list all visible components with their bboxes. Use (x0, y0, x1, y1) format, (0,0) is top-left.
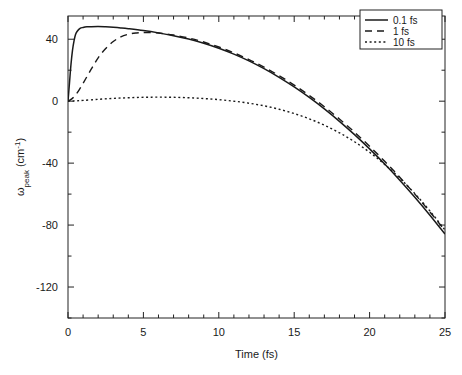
series-line-1-fs (68, 33, 445, 231)
legend-label-1-fs: 1 fs (393, 26, 409, 37)
y-tick-label: 0 (52, 95, 58, 107)
x-axis-title: Time (fs) (235, 348, 278, 360)
y-tick-label: -120 (36, 281, 58, 293)
y-axis-title: ωpeak (cm-1) (13, 138, 31, 196)
y-tick-label: 40 (46, 33, 58, 45)
legend-label-10-fs: 10 fs (393, 37, 415, 48)
legend[interactable]: 0.1 fs1 fs10 fs (360, 10, 442, 49)
series-line-0-1-fs (68, 27, 445, 235)
curves-layer (68, 27, 445, 235)
chart-figure: 0510152025400-40-80-120Time (fs)ωpeak (c… (0, 0, 462, 375)
series-line-10-fs (68, 97, 445, 230)
legend-label-0-1-fs: 0.1 fs (393, 15, 417, 26)
svg-text:ωpeak (cm-1): ωpeak (cm-1) (13, 138, 31, 196)
x-tick-label: 5 (140, 326, 146, 338)
x-tick-label: 25 (439, 326, 451, 338)
x-tick-label: 15 (288, 326, 300, 338)
x-tick-label: 10 (213, 326, 225, 338)
x-tick-label: 20 (363, 326, 375, 338)
x-tick-label: 0 (65, 326, 71, 338)
y-tick-label: -80 (42, 219, 58, 231)
chart-svg: 0510152025400-40-80-120Time (fs)ωpeak (c… (0, 0, 462, 375)
axis-labels-layer: 0510152025400-40-80-120Time (fs)ωpeak (c… (13, 33, 452, 360)
y-tick-label: -40 (42, 157, 58, 169)
